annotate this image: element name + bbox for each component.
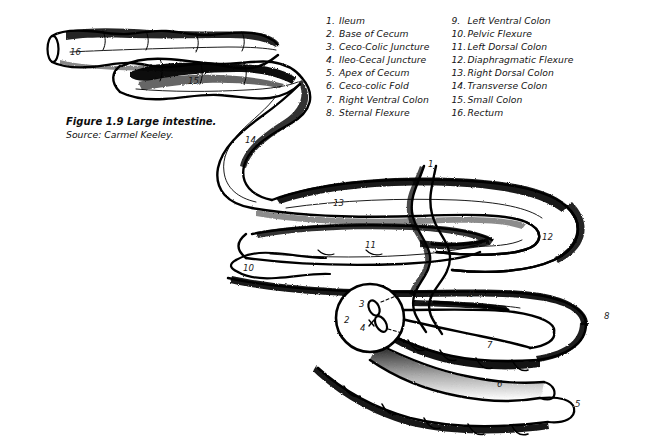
legend-number: 15.: [451, 93, 467, 106]
legend-label: Ileum: [339, 14, 365, 27]
legend-label: Small Colon: [467, 93, 522, 106]
legend-label: Base of Cecum: [339, 27, 409, 40]
callout-12: 12: [542, 233, 553, 242]
legend-item-4: 4. Ileo-Cecal Juncture: [326, 53, 429, 66]
callout-6: 6: [497, 380, 502, 389]
legend-item-13: 13. Right Dorsal Colon: [451, 66, 573, 79]
legend-label: Diaphragmatic Flexure: [467, 53, 573, 66]
legend-number: 3.: [326, 40, 339, 53]
legend-number: 10.: [451, 27, 467, 40]
callout-5: 5: [575, 400, 580, 409]
callout-10: 10: [243, 264, 254, 273]
callout-2: 2: [344, 316, 349, 325]
callout-4: 4: [360, 324, 365, 333]
legend-label: Right Dorsal Colon: [467, 66, 553, 79]
legend-number: 13.: [451, 66, 467, 79]
legend-item-6: 6. Ceco-colic Fold: [326, 79, 429, 92]
legend-number: 7.: [326, 93, 339, 106]
callout-15: 15: [188, 77, 199, 86]
legend-item-11: 11. Left Dorsal Colon: [451, 40, 573, 53]
legend-label: Pelvic Flexure: [467, 27, 532, 40]
callout-16: 16: [70, 48, 81, 57]
legend-label: Apex of Cecum: [339, 66, 409, 79]
legend-item-9: 9. Left Ventral Colon: [451, 14, 573, 27]
legend-item-16: 16. Rectum: [451, 106, 573, 119]
figure-large-intestine: 1 2 3 4 5 6 7 8 9 10 11 12 13 14 15 16 1…: [0, 0, 660, 445]
legend-label: Left Dorsal Colon: [467, 40, 547, 53]
legend-label: Sternal Flexure: [339, 106, 410, 119]
legend-number: 12.: [451, 53, 467, 66]
legend-item-15: 15. Small Colon: [451, 93, 573, 106]
legend-item-7: 7. Right Ventral Colon: [326, 93, 429, 106]
figure-legend: 1. Ileum 2. Base of Cecum 3. Ceco-Colic …: [326, 14, 573, 119]
legend-number: 6.: [326, 79, 339, 92]
legend-number: 2.: [326, 27, 339, 40]
legend-number: 4.: [326, 53, 339, 66]
callout-13: 13: [333, 199, 344, 208]
figure-caption-source: Source: Carmel Keeley.: [66, 128, 216, 141]
legend-label: Ceco-colic Fold: [339, 79, 409, 92]
callout-9: 9: [469, 290, 474, 299]
legend-label: Ceco-Colic Juncture: [339, 40, 429, 53]
legend-number: 16.: [451, 106, 467, 119]
legend-item-5: 5. Apex of Cecum: [326, 66, 429, 79]
legend-number: 11.: [451, 40, 467, 53]
legend-column-1: 1. Ileum 2. Base of Cecum 3. Ceco-Colic …: [326, 14, 429, 119]
legend-number: 1.: [326, 14, 339, 27]
legend-item-8: 8. Sternal Flexure: [326, 106, 429, 119]
legend-item-3: 3. Ceco-Colic Juncture: [326, 40, 429, 53]
legend-item-2: 2. Base of Cecum: [326, 27, 429, 40]
callout-7: 7: [487, 341, 492, 350]
legend-label: Ileo-Cecal Juncture: [339, 53, 426, 66]
legend-column-2: 9. Left Ventral Colon 10. Pelvic Flexure…: [451, 14, 573, 119]
legend-item-12: 12. Diaphragmatic Flexure: [451, 53, 573, 66]
legend-label: Left Ventral Colon: [467, 14, 550, 27]
legend-item-10: 10. Pelvic Flexure: [451, 27, 573, 40]
callout-8: 8: [604, 312, 609, 321]
callout-14: 14: [245, 136, 256, 145]
legend-label: Right Ventral Colon: [339, 93, 429, 106]
legend-number: 8.: [326, 106, 339, 119]
legend-number: 5.: [326, 66, 339, 79]
legend-number: 9.: [451, 14, 467, 27]
figure-caption-title: Figure 1.9 Large intestine.: [66, 115, 216, 128]
callout-11: 11: [365, 241, 376, 250]
callout-1: 1: [428, 160, 433, 169]
legend-item-14: 14. Transverse Colon: [451, 79, 573, 92]
figure-caption: Figure 1.9 Large intestine. Source: Carm…: [66, 115, 216, 141]
legend-number: 14.: [451, 79, 467, 92]
legend-label: Transverse Colon: [467, 79, 547, 92]
legend-label: Rectum: [467, 106, 503, 119]
callout-3: 3: [359, 300, 364, 309]
legend-item-1: 1. Ileum: [326, 14, 429, 27]
